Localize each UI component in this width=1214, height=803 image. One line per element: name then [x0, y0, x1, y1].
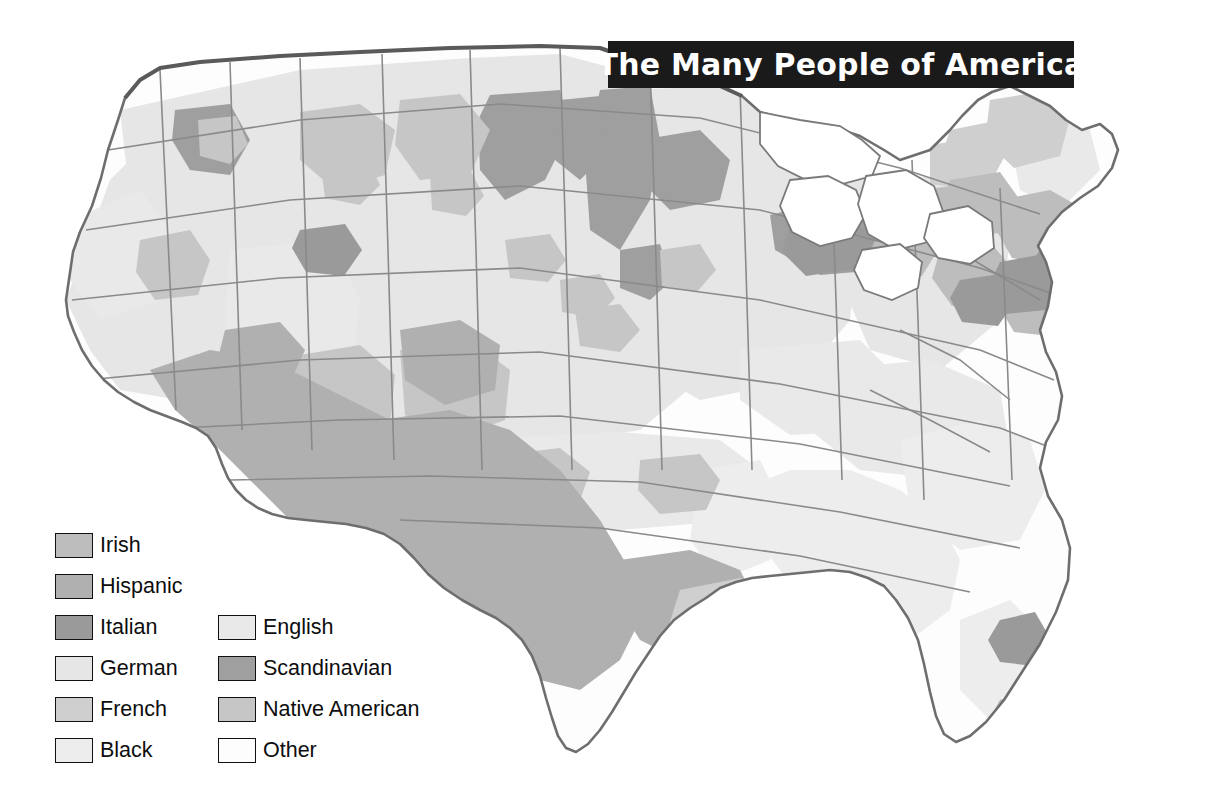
legend-label-native-american: Native American: [263, 699, 420, 721]
legend-swatch-black: [55, 738, 93, 763]
legend-swatch-french: [55, 697, 93, 722]
legend-item-hispanic[interactable]: Hispanic: [55, 566, 182, 607]
legend-label-italian: Italian: [100, 617, 157, 639]
legend-item-other[interactable]: Other: [218, 730, 420, 771]
legend-label-hispanic: Hispanic: [100, 576, 182, 598]
legend-label-irish: Irish: [100, 535, 141, 557]
legend-item-english[interactable]: English: [218, 607, 420, 648]
map-title-banner: The Many People of America: [608, 41, 1074, 88]
legend-column-2: English Scandinavian Native American Oth…: [218, 607, 420, 771]
legend-label-other: Other: [263, 740, 317, 762]
legend-label-german: German: [100, 658, 178, 680]
legend-label-scandinavian: Scandinavian: [263, 658, 392, 680]
map-page: The Many People of America Irish Hispani…: [0, 0, 1214, 803]
legend-swatch-native-american: [218, 697, 256, 722]
legend-item-scandinavian[interactable]: Scandinavian: [218, 648, 420, 689]
legend-swatch-italian: [55, 615, 93, 640]
legend-item-italian[interactable]: Italian: [55, 607, 182, 648]
legend-swatch-other: [218, 738, 256, 763]
legend-item-native-american[interactable]: Native American: [218, 689, 420, 730]
legend-label-english: English: [263, 617, 334, 639]
legend-item-black[interactable]: Black: [55, 730, 182, 771]
page-title: The Many People of America: [598, 50, 1085, 80]
legend-item-german[interactable]: German: [55, 648, 182, 689]
legend-column-1: Irish Hispanic Italian German French Bla…: [55, 525, 182, 771]
legend-swatch-irish: [55, 533, 93, 558]
legend-label-black: Black: [100, 740, 153, 762]
legend-swatch-scandinavian: [218, 656, 256, 681]
legend-swatch-english: [218, 615, 256, 640]
legend-item-irish[interactable]: Irish: [55, 525, 182, 566]
legend-swatch-german: [55, 656, 93, 681]
legend-swatch-hispanic: [55, 574, 93, 599]
legend-item-french[interactable]: French: [55, 689, 182, 730]
legend-label-french: French: [100, 699, 167, 721]
